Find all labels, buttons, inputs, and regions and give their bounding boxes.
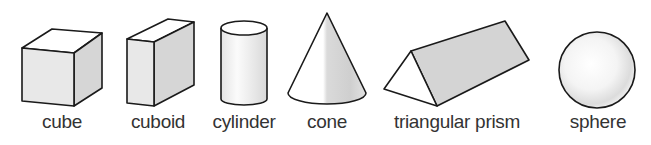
triangular-prism-shape xyxy=(384,21,529,106)
sphere-shape xyxy=(559,32,635,108)
label-sphere: sphere xyxy=(570,111,626,133)
cuboid-front-face xyxy=(127,39,154,106)
cube-front-face xyxy=(22,48,74,106)
label-cylinder: cylinder xyxy=(212,111,275,133)
cylinder-top xyxy=(221,21,267,35)
label-cube: cube xyxy=(42,111,82,133)
cylinder-shape xyxy=(221,21,267,105)
label-cuboid: cuboid xyxy=(131,111,185,133)
cylinder-body xyxy=(221,28,267,105)
cuboid-shape xyxy=(127,19,194,106)
cone-body xyxy=(288,13,366,104)
label-cone: cone xyxy=(307,111,347,133)
cone-shape xyxy=(288,13,366,104)
label-triangular-prism: triangular prism xyxy=(394,111,520,133)
cube-shape xyxy=(22,29,102,106)
sphere-body xyxy=(559,32,635,108)
